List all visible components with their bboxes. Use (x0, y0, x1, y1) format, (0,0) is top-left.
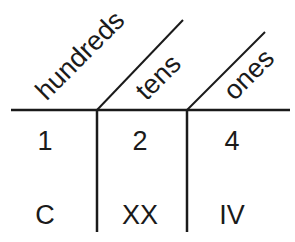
cell-ones-roman: IV (192, 202, 272, 229)
cell-hundreds-arabic: 1 (5, 128, 85, 155)
cell-ones-arabic: 4 (192, 128, 272, 155)
cell-tens-roman: XX (100, 202, 180, 229)
cell-tens-arabic: 2 (100, 128, 180, 155)
cell-hundreds-roman: C (5, 202, 85, 229)
